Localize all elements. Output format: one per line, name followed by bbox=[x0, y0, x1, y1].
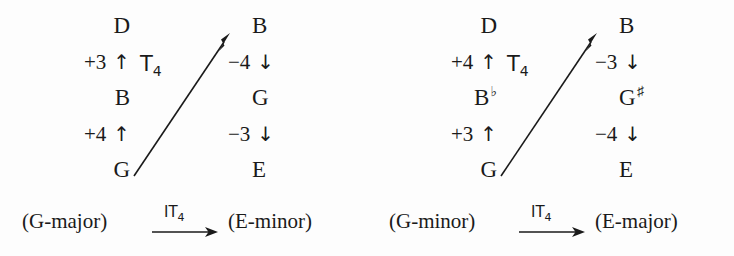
target-chord-stack: B−3↓G♯−4↓E bbox=[567, 8, 687, 188]
interval-cell: −3↓ bbox=[200, 116, 320, 152]
interval-value: +3 bbox=[84, 50, 106, 74]
interval-cell: −4↓ bbox=[200, 44, 320, 80]
sharp-icon: ♯ bbox=[637, 84, 644, 99]
note-name: G bbox=[252, 85, 269, 110]
arrow-up-icon: ↑ bbox=[113, 116, 130, 152]
note-name: D bbox=[480, 13, 497, 38]
interval-value: −3 bbox=[595, 50, 617, 74]
arrow-up-icon: ↑ bbox=[480, 44, 497, 80]
bottom-arrow-label: IT4 bbox=[164, 203, 185, 221]
arrow-down-icon: ↓ bbox=[624, 44, 641, 80]
diagonal-arrow-label: T4 bbox=[140, 52, 162, 76]
bottom-arrow-group: IT4 bbox=[515, 205, 589, 245]
target-chord-stack: B−4↓G−3↓E bbox=[200, 8, 320, 188]
note-cell: D bbox=[377, 8, 497, 44]
interval-value: −4 bbox=[228, 50, 250, 74]
interval-cell: +3↑ bbox=[377, 116, 497, 152]
source-chord-stack: D+4↑B♭+3↑G bbox=[377, 8, 497, 188]
bottom-arrow-label-base: IT bbox=[164, 203, 178, 221]
panel-bottom-row: (G-minor)IT4(E-major) bbox=[367, 205, 734, 247]
note-cell: B bbox=[200, 8, 320, 44]
note-cell: E bbox=[200, 152, 320, 188]
interval-cell: +4↑ bbox=[10, 116, 130, 152]
arrow-down-icon: ↓ bbox=[257, 44, 274, 80]
note-cell: G bbox=[10, 152, 130, 188]
interval-value: +4 bbox=[451, 50, 473, 74]
interval-value: +4 bbox=[84, 122, 106, 146]
arrow-down-icon: ↓ bbox=[257, 116, 274, 152]
note-cell: G bbox=[377, 152, 497, 188]
horizontal-transformation-arrow-icon bbox=[148, 205, 222, 245]
interval-cell: −4↓ bbox=[567, 116, 687, 152]
bottom-arrow-group: IT4 bbox=[148, 205, 222, 245]
arrow-up-icon: ↑ bbox=[480, 116, 497, 152]
bottom-arrow-label-subscript: 4 bbox=[545, 211, 552, 224]
source-key-label: (G-major) bbox=[22, 209, 107, 234]
diagonal-arrow-label-base: T bbox=[507, 52, 520, 76]
horizontal-transformation-arrow-icon bbox=[515, 205, 589, 245]
interval-value: −4 bbox=[595, 122, 617, 146]
interval-value: +3 bbox=[451, 122, 473, 146]
diagonal-arrow-label-subscript: 4 bbox=[520, 63, 529, 79]
note-cell: G bbox=[200, 80, 320, 116]
note-name: G bbox=[480, 157, 497, 182]
note-name: E bbox=[619, 157, 633, 182]
note-cell: E bbox=[567, 152, 687, 188]
source-chord-stack: D+3↑B+4↑G bbox=[10, 8, 130, 188]
arrow-down-icon: ↓ bbox=[624, 116, 641, 152]
transformation-panel-2: D+4↑B♭+3↑GB−3↓G♯−4↓ET4(G-minor)IT4(E-maj… bbox=[367, 0, 734, 256]
note-cell: B bbox=[567, 8, 687, 44]
note-name: B bbox=[115, 85, 130, 110]
note-cell: G♯ bbox=[567, 80, 687, 116]
transformation-figure: D+3↑B+4↑GB−4↓G−3↓ET4(G-major)IT4(E-minor… bbox=[0, 0, 734, 256]
interval-cell: −3↓ bbox=[567, 44, 687, 80]
note-name: G bbox=[619, 85, 636, 110]
bottom-arrow-label-subscript: 4 bbox=[178, 211, 185, 224]
source-key-label: (G-minor) bbox=[389, 209, 475, 234]
interval-cell: +3↑ bbox=[10, 44, 130, 80]
note-name: B bbox=[252, 13, 267, 38]
interval-value: −3 bbox=[228, 122, 250, 146]
transformation-panel-1: D+3↑B+4↑GB−4↓G−3↓ET4(G-major)IT4(E-minor… bbox=[0, 0, 367, 256]
note-name: G bbox=[113, 157, 130, 182]
arrow-up-icon: ↑ bbox=[113, 44, 130, 80]
bottom-arrow-label-base: IT bbox=[531, 203, 545, 221]
target-key-label: (E-minor) bbox=[228, 209, 312, 234]
note-cell: B bbox=[10, 80, 130, 116]
bottom-arrow-label: IT4 bbox=[531, 203, 552, 221]
diagonal-arrow-label-base: T bbox=[140, 52, 153, 76]
panel-bottom-row: (G-major)IT4(E-minor) bbox=[0, 205, 367, 247]
note-name: E bbox=[252, 157, 266, 182]
note-cell: D bbox=[10, 8, 130, 44]
diagonal-arrow-label: T4 bbox=[507, 52, 529, 76]
note-name: B bbox=[619, 13, 634, 38]
flat-icon: ♭ bbox=[490, 84, 497, 99]
target-key-label: (E-major) bbox=[595, 209, 678, 234]
interval-cell: +4↑ bbox=[377, 44, 497, 80]
diagonal-arrow-label-subscript: 4 bbox=[153, 63, 162, 79]
note-name: D bbox=[113, 13, 130, 38]
note-cell: B♭ bbox=[377, 80, 497, 116]
note-name: B bbox=[474, 85, 489, 110]
